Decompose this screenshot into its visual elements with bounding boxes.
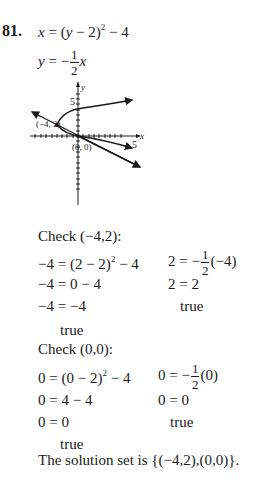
tail: − 4 (107, 370, 130, 386)
fraction-denominator: 2 (201, 263, 210, 277)
check-label: Check (38, 228, 76, 244)
fraction-numerator: 1 (70, 48, 79, 63)
equation-2: y = −12x (38, 48, 86, 77)
fraction-numerator: 1 (191, 362, 200, 377)
check1-right-result: true (180, 298, 203, 315)
prefix: 0 = − (158, 367, 190, 383)
fraction-numerator: 1 (201, 248, 210, 263)
check2-left-result: true (60, 436, 83, 453)
point-label-1: (−4, 2) (36, 119, 61, 129)
solution-set: {(−4,2),(0,0)}. (151, 452, 239, 468)
check2-right-line1: 0 = −12(0) (158, 362, 218, 391)
suffix: (−4) (210, 253, 236, 269)
conclusion-text: The solution set is (38, 452, 148, 468)
check2-heading: Check (0,0): (38, 341, 113, 358)
eq2-var: x (80, 53, 87, 69)
check2-left-0: 0 = (0 − 2) (38, 370, 102, 386)
check1-left-line3: −4 = −4 (38, 298, 86, 315)
y-tick-label: 5 (70, 96, 75, 107)
check1-left-line2: −4 = 0 − 4 (38, 276, 101, 293)
check1-heading: Check (−4,2): (38, 228, 121, 245)
point-origin (76, 134, 80, 138)
check2-left-line1: 0 = (0 − 2)2 − 4 (38, 368, 130, 387)
fraction-denominator: 2 (191, 377, 200, 391)
check1-right-line1: 2 = −12(−4) (168, 248, 236, 277)
x-axis-label: x (140, 131, 144, 141)
eq2-fraction: 12 (70, 48, 79, 77)
check2-left-line2: 0 = 4 − 4 (38, 392, 92, 409)
check-label: Check (38, 341, 76, 357)
check1-left-line1: −4 = (2 − 2)2 − 4 (38, 254, 139, 273)
fraction-denominator: 2 (70, 63, 79, 77)
x-tick-label: 5 (132, 139, 137, 150)
parabola-upper-branch (57, 100, 132, 125)
conclusion: The solution set is {(−4,2),(0,0)}. (38, 452, 239, 469)
check1-left-result: true (60, 322, 83, 339)
point-label-2: (0, 0) (72, 142, 92, 152)
check2-right-line2: 0 = 0 (158, 392, 189, 409)
eq1-lhs: x (38, 24, 45, 40)
y-axis-arrow-icon (76, 82, 80, 87)
equation-1: x = (y − 2)2 − 4 (38, 22, 129, 41)
tail: − 4 (115, 256, 138, 272)
check-point: (−4,2): (80, 228, 121, 244)
check2-left-line3: 0 = 0 (38, 414, 69, 431)
fraction: 12 (191, 362, 200, 391)
eq2-eq: = − (48, 53, 69, 69)
eq2-lhs: y (38, 53, 45, 69)
prefix: 2 = − (168, 253, 200, 269)
check1-left-0: −4 = (2 − 2) (38, 256, 111, 272)
fraction: 12 (201, 248, 210, 277)
check-point: (0,0): (80, 341, 113, 357)
eq1-rest: − 2) (72, 24, 100, 40)
y-axis-label: y (81, 82, 85, 92)
check2-right-result: true (170, 414, 193, 431)
suffix: (0) (200, 367, 218, 383)
problem-number: 81. (2, 22, 22, 40)
eq1-mid: = ( (48, 24, 65, 40)
check1-right-line2: 2 = 2 (168, 276, 199, 293)
eq1-tail: − 4 (105, 24, 128, 40)
